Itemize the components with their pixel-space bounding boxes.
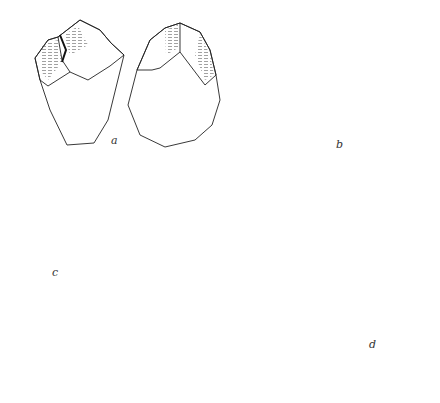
- label-a: a: [111, 134, 118, 147]
- tool-a-view-1: [35, 20, 124, 145]
- label-d: d: [369, 338, 376, 351]
- label-c: c: [52, 266, 58, 279]
- label-b: b: [336, 138, 343, 151]
- tool-a-view-2: [128, 23, 220, 147]
